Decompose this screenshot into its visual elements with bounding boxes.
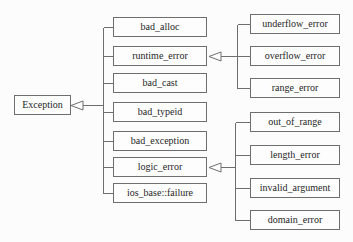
node-bad-typeid: bad_typeid <box>113 102 207 122</box>
inheritance-arrow-icon-exception <box>71 101 83 110</box>
node-range-error: range_error <box>250 78 340 98</box>
node-bad-alloc: bad_alloc <box>113 17 207 37</box>
exception-hierarchy-diagram: Exception bad_alloc runtime_error bad_ca… <box>0 0 353 242</box>
node-overflow-error: overflow_error <box>250 46 340 66</box>
node-length-error: length_error <box>250 145 340 165</box>
node-out-of-range: out_of_range <box>250 112 340 132</box>
node-runtime-error: runtime_error <box>113 46 207 66</box>
node-logic-error: logic_error <box>113 157 207 177</box>
node-ios-base-failure: ios_base::failure <box>113 183 207 203</box>
inheritance-arrow-icon-runtime <box>209 52 221 61</box>
inheritance-arrow-icon-logic <box>209 163 221 172</box>
node-underflow-error: underflow_error <box>250 14 340 34</box>
node-invalid-argument: invalid_argument <box>250 178 340 198</box>
node-exception: Exception <box>14 95 71 115</box>
node-bad-exception: bad_exception <box>113 131 207 151</box>
node-domain-error: domain_error <box>250 210 340 230</box>
node-bad-cast: bad_cast <box>113 73 207 93</box>
